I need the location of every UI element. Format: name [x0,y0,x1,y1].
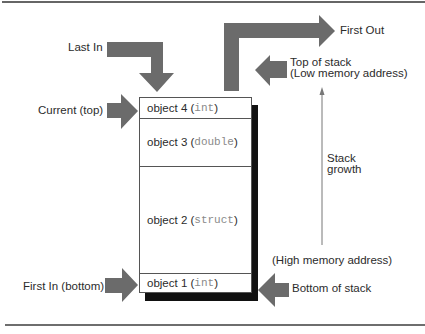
stack-item-object-4: object 4 (int) [140,98,251,118]
stack-growth-label-line2: growth [327,163,362,175]
high-memory-label: (High memory address) [272,254,392,266]
bottom-rule [5,324,425,326]
top-of-stack-arrow-icon [255,55,287,86]
bottom-of-stack-label: Bottom of stack [292,282,371,294]
current-top-label: Current (top) [38,104,103,116]
low-memory-label: (Low memory address) [290,67,408,79]
first-in-bottom-label: First In (bottom) [23,280,104,292]
stack-item-object-2: object 2 (struct) [140,166,251,273]
first-out-arrow-icon [224,15,335,91]
stack-item-type: int [194,277,214,289]
stack-item-type: int [194,102,214,114]
stack-box: object 4 (int) object 3 (double) object … [139,97,252,293]
first-out-label: First Out [340,24,384,36]
first-in-arrow-icon [105,268,138,302]
stack-item-object-3: object 3 (double) [140,118,251,166]
last-in-label: Last In [68,41,103,53]
stack-item-name: object 4 [147,102,187,114]
last-in-arrow-icon [107,42,174,92]
stack-growth-arrow-icon [320,87,325,245]
current-top-arrow-icon [107,94,138,129]
bottom-of-stack-arrow-icon [258,273,289,307]
stack-item-name: object 1 [147,277,187,289]
stack-item-type: struct [194,214,234,226]
stack-item-type: double [194,136,234,148]
stack-item-object-1: object 1 (int) [140,273,251,292]
stack-item-name: object 2 [147,214,187,226]
stack-item-name: object 3 [147,136,187,148]
